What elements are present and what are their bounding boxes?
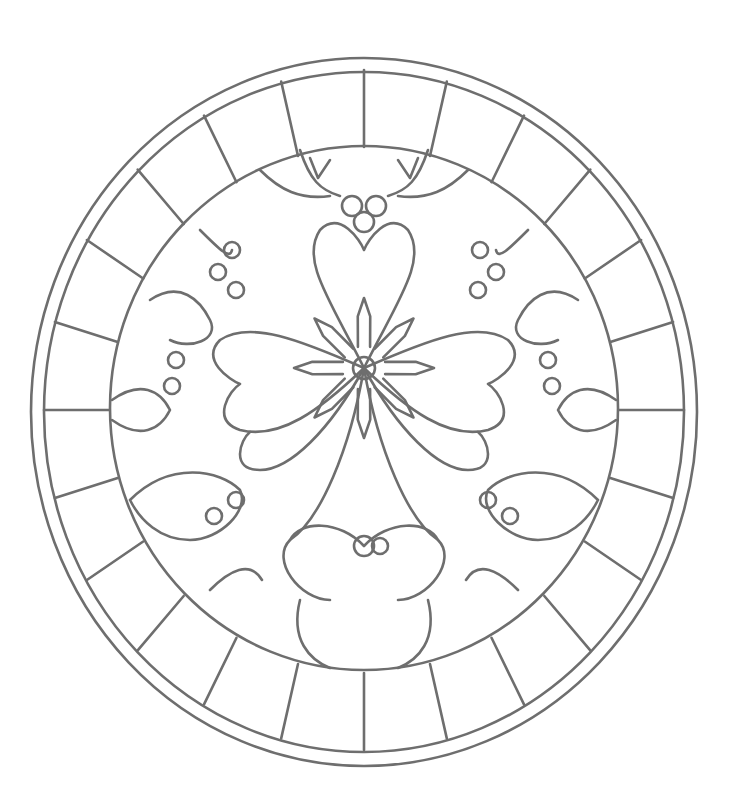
border-divider xyxy=(281,82,298,156)
border-divider xyxy=(55,478,118,498)
border-divider xyxy=(138,596,184,650)
border-divider xyxy=(87,542,143,581)
border-divider xyxy=(204,116,237,183)
border-divider xyxy=(544,596,590,650)
border-divider xyxy=(138,170,184,224)
border-divider xyxy=(610,478,673,498)
stained-glass-window-drawing xyxy=(0,0,741,809)
border-divider xyxy=(204,638,237,705)
star-point xyxy=(385,362,434,374)
outer-ring xyxy=(31,58,697,766)
border-divider xyxy=(544,170,590,224)
inner-medallion xyxy=(110,146,618,670)
border-divider xyxy=(610,322,673,342)
star-point xyxy=(294,362,343,374)
border-divider xyxy=(492,638,525,705)
border-dividers xyxy=(44,70,684,750)
border-divider xyxy=(430,664,447,738)
border-divider xyxy=(585,542,641,581)
border-divider xyxy=(55,322,118,342)
border-divider xyxy=(281,664,298,738)
border-divider xyxy=(585,240,641,279)
border-divider xyxy=(492,116,525,183)
border-divider xyxy=(87,240,143,279)
star-point xyxy=(358,298,370,347)
petals-and-leaves xyxy=(130,150,598,668)
border-divider xyxy=(430,82,447,156)
